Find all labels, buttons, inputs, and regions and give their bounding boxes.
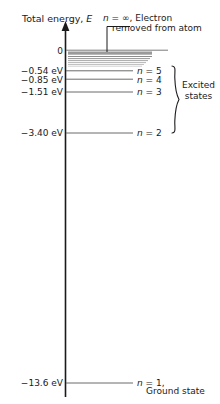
energy-label-n4: −0.85 eV — [21, 75, 63, 85]
energy-label-n-infinity: 0 — [57, 46, 63, 56]
excited-states-brace — [172, 66, 179, 133]
excited-states-label: Excited states — [182, 80, 215, 103]
energy-level-diagram — [0, 0, 220, 404]
annotation-line-2: removed from atom — [103, 23, 202, 33]
quantum-number-label-n4: n = 4 — [137, 75, 162, 85]
axis-caption-text: Total energy, — [22, 13, 86, 24]
axis-caption: Total energy, E — [22, 14, 92, 25]
quantum-number-label-n2: n = 2 — [137, 128, 162, 138]
quantum-number-label-n3: n = 3 — [137, 87, 162, 97]
excited-states-label-line-1: Excited — [182, 80, 215, 90]
energy-label-n1: −13.6 eV — [21, 378, 63, 388]
excited-states-label-line-2: states — [185, 91, 213, 101]
continuum-band — [68, 52, 152, 67]
axis-caption-symbol: E — [86, 13, 92, 24]
ground-state-label: Ground state — [146, 386, 205, 396]
energy-label-n2: −3.40 eV — [21, 128, 63, 138]
annotation-line-1: = ∞, Electron — [109, 13, 172, 23]
infinity-annotation: n = ∞, Electron removed from atom — [103, 13, 202, 34]
energy-label-n3: −1.51 eV — [21, 87, 63, 97]
